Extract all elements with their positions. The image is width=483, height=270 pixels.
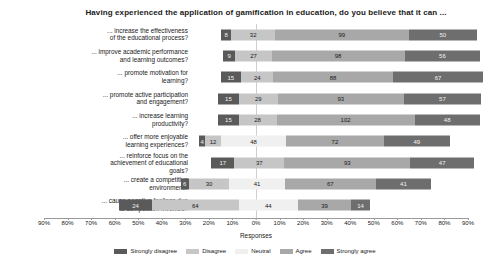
legend-swatch-icon: [321, 249, 334, 254]
x-tick-label: 50%: [132, 220, 144, 226]
stacked-bar: 15248867: [221, 72, 483, 83]
chart-row: ... reinforce focus on theachievement of…: [0, 152, 472, 173]
legend-label: Agree: [296, 248, 312, 254]
bar-segment: 57: [404, 93, 481, 104]
x-tick-mark: [115, 218, 116, 220]
row-label: ... reinforce focus on theachievement of…: [2, 151, 188, 174]
bar-segment: 24: [119, 200, 152, 211]
stacked-bar: 412487249: [199, 136, 450, 147]
row-label: ... offer more enjoyablelearning experie…: [2, 134, 188, 149]
bar-segment: 67: [285, 178, 376, 189]
bar-segment: 14: [351, 200, 370, 211]
bar-segment: 8: [221, 29, 232, 40]
chart-legend: Strongly disagreeDisagreeNeutralAgreeStr…: [0, 248, 472, 254]
bar-segment: 17: [211, 157, 234, 168]
bar-segment: 30: [189, 178, 230, 189]
x-tick-label: 80%: [438, 220, 450, 226]
x-tick-label: 0%: [252, 220, 261, 226]
bar-segment: 39: [298, 200, 351, 211]
chart-row: ... improve academic performanceand lear…: [0, 45, 472, 66]
stacked-bar: 15299357: [218, 93, 481, 104]
bar-segment: 99: [275, 29, 409, 40]
legend-item[interactable]: Strongly disagree: [114, 248, 177, 254]
row-label: ... increase the effectivenessof the edu…: [2, 27, 188, 42]
x-tick-label: 70%: [85, 220, 97, 226]
legend-label: Strongly disagree: [130, 248, 177, 254]
x-tick-mark: [303, 218, 304, 220]
x-axis-label: Responses: [0, 232, 472, 239]
x-tick-mark: [209, 218, 210, 220]
x-tick-mark: [44, 218, 45, 220]
chart-row: ... promote active participationand enga…: [0, 88, 472, 109]
bar-segment: 56: [405, 50, 481, 61]
x-tick-label: 30%: [179, 220, 191, 226]
bar-segment: 98: [272, 50, 405, 61]
bar-segment: 24: [241, 72, 274, 83]
bar-segment: 50: [409, 29, 477, 40]
bar-segment: 41: [229, 178, 285, 189]
legend-item[interactable]: Agree: [280, 248, 312, 254]
x-tick-label: 60%: [109, 220, 121, 226]
legend-swatch-icon: [114, 249, 127, 254]
bar-segment: 15: [221, 72, 241, 83]
bar-segment: 27: [235, 50, 272, 61]
bar-segment: 64: [152, 200, 239, 211]
bar-segment: 48: [415, 114, 480, 125]
stacked-bar: 630416741: [181, 178, 432, 189]
x-tick-mark: [397, 218, 398, 220]
bar-segment: 49: [384, 136, 450, 147]
legend-item[interactable]: Disagree: [186, 248, 226, 254]
x-tick-label: 80%: [62, 220, 74, 226]
row-label: ... create a competitiveenvironment?: [2, 176, 188, 191]
x-tick-label: 60%: [391, 220, 403, 226]
chart-row: ... increase the effectivenessof the edu…: [0, 24, 472, 45]
x-tick-mark: [232, 218, 233, 220]
legend-item[interactable]: Strongly agree: [321, 248, 376, 254]
stacked-bar: 2464443914: [119, 200, 370, 211]
chart-row: ... promote motivation forlearning?15248…: [0, 67, 472, 88]
x-tick-mark: [350, 218, 351, 220]
bar-segment: 9: [223, 50, 235, 61]
bar-segment: 32: [231, 29, 274, 40]
x-tick-mark: [280, 218, 281, 220]
row-label: ... increase learningproductivity?: [2, 112, 188, 127]
bar-segment: 41: [376, 178, 432, 189]
chart-title: Having experienced the application of ga…: [0, 8, 472, 17]
x-tick-label: 90%: [38, 220, 50, 226]
bar-segment: 47: [410, 157, 474, 168]
legend-label: Neutral: [251, 248, 270, 254]
legend-swatch-icon: [235, 249, 248, 254]
x-tick-mark: [68, 218, 69, 220]
x-tick-label: 10%: [274, 220, 286, 226]
legend-swatch-icon: [280, 249, 293, 254]
x-tick-label: 90%: [462, 220, 474, 226]
x-tick-mark: [162, 218, 163, 220]
x-tick-mark: [91, 218, 92, 220]
bar-segment: 6: [181, 178, 189, 189]
row-label: ... improve academic performanceand lear…: [2, 48, 188, 63]
row-label: ... promote motivation forlearning?: [2, 70, 188, 85]
bar-segment: 72: [286, 136, 384, 147]
chart-row: ... cause negative feelings dueto compet…: [0, 195, 472, 216]
x-tick-mark: [444, 218, 445, 220]
x-tick-mark: [327, 218, 328, 220]
legend-item[interactable]: Neutral: [235, 248, 270, 254]
bar-segment: 29: [239, 93, 278, 104]
row-label: ... promote active participationand enga…: [2, 91, 188, 106]
bar-segment: 28: [239, 114, 277, 125]
x-tick-label: 50%: [368, 220, 380, 226]
chart-row: ... increase learningproductivity?152810…: [0, 109, 472, 130]
bar-segment: 93: [278, 93, 404, 104]
legend-label: Strongly agree: [337, 248, 376, 254]
bar-segment: 88: [273, 72, 392, 83]
bar-segment: 93: [284, 157, 410, 168]
bar-segment: 15: [218, 114, 238, 125]
stacked-bar: 8329950: [221, 29, 477, 40]
x-tick-label: 10%: [226, 220, 238, 226]
stacked-bar: 17379347: [211, 157, 474, 168]
x-tick-label: 30%: [321, 220, 333, 226]
x-tick-mark: [374, 218, 375, 220]
bar-segment: 12: [205, 136, 221, 147]
plot-area: ... increase the effectivenessof the edu…: [0, 24, 472, 216]
